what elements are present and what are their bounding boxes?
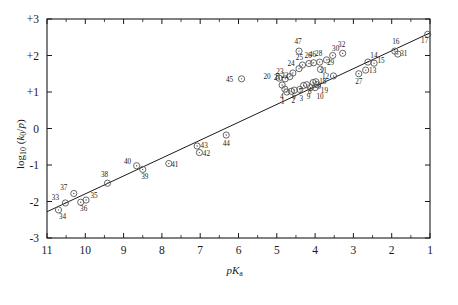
data-point-center bbox=[332, 55, 333, 56]
x-tick-label: 1 bbox=[427, 244, 433, 256]
data-point-label: 19 bbox=[321, 87, 329, 95]
plot-canvas: 1110987654321 +3+2+10-1-2-3 123456789910… bbox=[0, 0, 458, 305]
data-point-label: 15 bbox=[377, 57, 385, 65]
data-point-center bbox=[313, 62, 314, 63]
y-tick-label: -3 bbox=[29, 232, 39, 244]
data-point-label: 40 bbox=[124, 158, 132, 166]
data-point-label: 36 bbox=[80, 205, 88, 213]
y-tick-label: +3 bbox=[27, 13, 39, 25]
data-point-center bbox=[397, 53, 398, 54]
data-point-label: 43 bbox=[201, 142, 209, 150]
data-point-label: 47 bbox=[294, 38, 302, 46]
x-tick-label: 8 bbox=[159, 244, 165, 256]
data-point-center bbox=[373, 62, 374, 63]
data-point-label: 44 bbox=[223, 140, 231, 148]
x-tick-label: 10 bbox=[80, 244, 92, 256]
data-point-center bbox=[365, 69, 366, 70]
y-tick-label: -2 bbox=[29, 196, 39, 208]
data-point-label: 13 bbox=[369, 67, 377, 75]
data-point-label: 38 bbox=[101, 171, 109, 179]
data-point-center bbox=[85, 199, 86, 200]
data-point-center bbox=[302, 64, 303, 65]
data-point-center bbox=[319, 61, 320, 62]
data-point-label: 34 bbox=[59, 213, 67, 221]
data-point-label: 29 bbox=[327, 59, 335, 67]
x-tick-label: 3 bbox=[351, 244, 357, 256]
data-point-label: 42 bbox=[203, 150, 211, 158]
data-point-label: 46 bbox=[309, 51, 317, 59]
data-point-center bbox=[292, 72, 293, 73]
data-point-center bbox=[333, 75, 334, 76]
data-point-label: 35 bbox=[90, 192, 98, 200]
data-point-label: 39 bbox=[141, 173, 149, 181]
x-tick-label: 6 bbox=[236, 244, 242, 256]
data-point-center bbox=[427, 34, 428, 35]
x-tick-labels: 1110987654321 bbox=[41, 244, 433, 256]
y-tick-label: +1 bbox=[27, 86, 39, 98]
x-tick-label: 5 bbox=[274, 244, 280, 256]
data-point-label: 18 bbox=[319, 78, 327, 86]
data-point-label: 24 bbox=[287, 60, 295, 68]
data-point-center bbox=[284, 88, 285, 89]
data-point-label: 6 bbox=[292, 93, 296, 101]
y-tick-label: -1 bbox=[29, 159, 39, 171]
data-point-label: 31 bbox=[400, 50, 408, 58]
data-point-label: 23 bbox=[276, 68, 284, 76]
data-point-center bbox=[308, 63, 309, 64]
y-tick-labels: +3+2+10-1-2-3 bbox=[27, 13, 40, 244]
data-point-center bbox=[58, 209, 59, 210]
data-point-center bbox=[241, 78, 242, 79]
data-point-label: 9 bbox=[307, 93, 311, 101]
data-point-center bbox=[367, 61, 368, 62]
data-point-center bbox=[80, 202, 81, 203]
x-tick-label: 9 bbox=[121, 244, 127, 256]
data-point-center bbox=[298, 50, 299, 51]
data-point-center bbox=[281, 84, 282, 85]
scatter-plot-figure: 1110987654321 +3+2+10-1-2-3 123456789910… bbox=[0, 0, 458, 305]
y-tick-label: 0 bbox=[33, 123, 39, 135]
x-tick-label: 7 bbox=[197, 244, 203, 256]
data-point-center bbox=[226, 134, 227, 135]
y-tick-label: +2 bbox=[27, 50, 39, 62]
data-point-label: 4 bbox=[280, 93, 284, 101]
data-point-label: 7 bbox=[299, 88, 303, 96]
data-point-label: 33 bbox=[52, 194, 60, 202]
data-point-center bbox=[168, 163, 169, 164]
x-tick-label: 11 bbox=[41, 244, 52, 256]
x-axis-label: pKa bbox=[227, 264, 243, 278]
data-point-label: 32 bbox=[338, 41, 346, 49]
data-point-label: 28 bbox=[315, 50, 323, 58]
data-point-center bbox=[142, 169, 143, 170]
data-point-label: 20 bbox=[264, 73, 272, 81]
x-tick-label: 4 bbox=[312, 244, 318, 256]
data-point-label: 41 bbox=[171, 161, 179, 169]
data-point-label: 27 bbox=[355, 78, 363, 86]
data-point-center bbox=[289, 76, 290, 77]
data-point-center bbox=[136, 165, 137, 166]
data-point-label: 37 bbox=[60, 184, 68, 192]
data-point-center bbox=[65, 202, 66, 203]
data-point-center bbox=[107, 183, 108, 184]
data-point-center bbox=[342, 53, 343, 54]
x-tick-label: 2 bbox=[389, 244, 395, 256]
data-point-center bbox=[196, 145, 197, 146]
data-point-labels: 1234567899101112131415161718192021222324… bbox=[52, 37, 429, 221]
data-point-label: 16 bbox=[392, 38, 400, 46]
data-point-center bbox=[199, 152, 200, 153]
data-point-center bbox=[358, 73, 359, 74]
data-point-center bbox=[306, 84, 307, 85]
y-axis-label: log10 (k0/p) bbox=[14, 119, 28, 169]
data-point-center bbox=[298, 68, 299, 69]
data-point-label: 45 bbox=[226, 76, 234, 84]
data-point-center bbox=[73, 193, 74, 194]
data-point-label: 17 bbox=[421, 37, 429, 45]
data-point-center bbox=[294, 89, 295, 90]
data-point-label: 25 bbox=[296, 54, 304, 62]
